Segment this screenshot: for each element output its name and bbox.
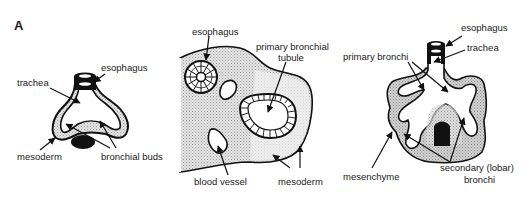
label-secondary-bronchi-1: secondary (lobar) — [440, 162, 514, 173]
label-mesenchyme: mesenchyme — [343, 171, 400, 182]
label-bronchial-buds: bronchial buds — [101, 151, 163, 162]
label-mesoderm-1: mesoderm — [17, 151, 62, 162]
label-mesoderm-2: mesoderm — [278, 176, 323, 187]
lung-development-figure: A esophagus trachea mesoderm bronchial b… — [0, 0, 531, 200]
label-secondary-bronchi-2: bronchi — [464, 174, 495, 185]
label-blood-vessel: blood vessel — [194, 176, 247, 187]
label-esophagus-3: esophagus — [461, 22, 508, 33]
panel-letter: A — [14, 18, 24, 33]
panel-1-bronchial-buds — [40, 73, 128, 151]
label-primary-bronchial-tubule-1: primary bronchial — [256, 41, 329, 52]
esophagus-section — [185, 61, 217, 93]
label-trachea-1: trachea — [17, 77, 49, 88]
label-primary-bronchi: primary bronchi — [343, 51, 408, 62]
label-esophagus-2: esophagus — [192, 26, 239, 37]
label-primary-bronchial-tubule-2: tubule — [278, 52, 304, 63]
label-esophagus-1: esophagus — [101, 62, 148, 73]
label-trachea-3: trachea — [467, 42, 499, 53]
